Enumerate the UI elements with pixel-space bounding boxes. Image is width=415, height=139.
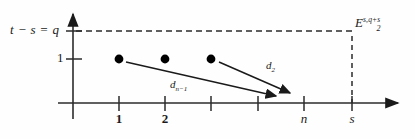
differential-label-d-n-minus-1: dn−1 bbox=[170, 79, 187, 90]
d-sub-long: n−1 bbox=[176, 85, 188, 93]
e2-superscript: s,q+s bbox=[363, 15, 381, 24]
e2-base: E bbox=[355, 15, 363, 30]
differential-arrow-d-n-minus-1 bbox=[126, 62, 276, 96]
d-sub-short: 2 bbox=[272, 66, 276, 74]
differential-arrow-d-2 bbox=[219, 62, 290, 93]
axis-equation-label: t − s = q bbox=[10, 23, 59, 36]
x-tick-label-n: n bbox=[294, 112, 314, 125]
x-tick-label-s: s bbox=[342, 112, 362, 125]
spectral-sequence-figure: t − s = q Es,q+s2 1 dn−1 d2 1 2 n s bbox=[0, 0, 415, 139]
x-tick-label-1: 1 bbox=[109, 112, 129, 125]
data-point-3 bbox=[207, 55, 216, 64]
e2-term-label: Es,q+s2 bbox=[355, 16, 380, 29]
differential-label-d-2: d2 bbox=[266, 60, 275, 71]
e2-subscript: 2 bbox=[376, 24, 380, 33]
y-axis-tick-label-one: 1 bbox=[57, 51, 64, 64]
data-point-2 bbox=[161, 55, 170, 64]
data-point-1 bbox=[115, 55, 124, 64]
x-tick-label-2: 2 bbox=[155, 112, 175, 125]
